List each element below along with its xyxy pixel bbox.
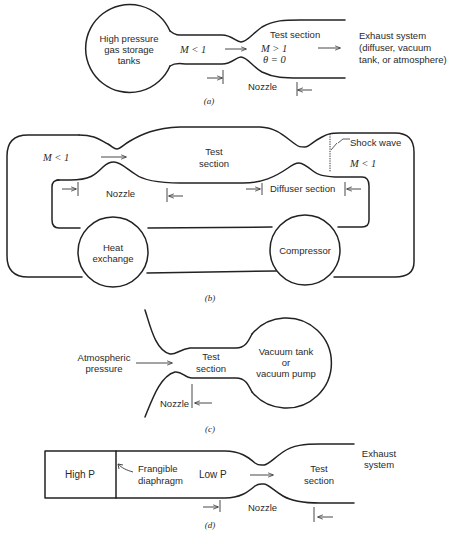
panel-a-tank-label-2: gas storage	[104, 44, 154, 55]
panel-d-caption: (d)	[205, 520, 216, 530]
panel-c-vacuum-label-1: Vacuum tank	[259, 346, 314, 357]
panel-b-test-section-label-2: section	[199, 158, 229, 169]
panel-d-diaphragm-pointer	[118, 464, 133, 472]
panel-d-diaphragm-label-2: diaphragm	[138, 475, 183, 486]
panel-c-test-section-label-2: section	[196, 363, 226, 374]
panel-c-test-section-label-1: Test	[202, 351, 220, 362]
panel-a-theta: θ = 0	[263, 54, 286, 65]
panel-a-exhaust-label-3: tank, or atmosphere)	[359, 54, 447, 65]
panel-d-upper-wall	[116, 444, 354, 465]
panel-b-shock-leader	[338, 139, 350, 143]
panel-b-heat-exchanger-label-2: exchange	[92, 253, 133, 264]
panel-c-vacuum-label-2: or	[282, 357, 290, 368]
wind-tunnel-figure: High pressure gas storage tanks M < 1 Te…	[0, 0, 449, 535]
panel-b-inner-bottom	[148, 227, 272, 228]
panel-c-inlet-label-2: pressure	[86, 363, 123, 374]
panel-b-diffuser-label: Diffuser section	[270, 183, 335, 194]
panel-d-high-p-label: High P	[65, 469, 95, 480]
panel-a-upstream-mach: M < 1	[179, 44, 206, 55]
panel-b-nozzle-label: Nozzle	[106, 188, 135, 199]
panel-b-test-section-label-1: Test	[205, 146, 223, 157]
panel-d-shock-tunnel: High P Frangible diaphragm Low P Test se…	[45, 444, 397, 530]
panel-d-low-p-label: Low P	[199, 469, 227, 480]
panel-b-compressor-label: Compressor	[279, 245, 331, 256]
panel-b-upstream-mach: M < 1	[42, 152, 69, 163]
panel-a-caption: (a)	[204, 96, 215, 106]
panel-c-lower-wall	[145, 372, 252, 417]
panel-c-inlet-label-1: Atmospheric	[78, 352, 131, 363]
panel-a-exhaust-label-1: Exhaust system	[359, 30, 426, 41]
panel-b-heat-exchanger-label-1: Heat	[103, 242, 123, 253]
panel-b-inner-left	[52, 180, 80, 228]
panel-b-outer-bottom-mid	[147, 271, 276, 273]
panel-a-lower-wall	[170, 57, 345, 78]
panel-c-nozzle-label: Nozzle	[160, 398, 189, 409]
panel-b-inner-wall	[57, 162, 369, 227]
panel-c-caption: (c)	[205, 424, 215, 434]
panel-a-tank-label-1: High pressure	[99, 33, 158, 44]
panel-c-vacuum-label-3: vacuum pump	[256, 368, 316, 379]
panel-a-nozzle-label: Nozzle	[248, 81, 277, 92]
panel-a-test-mach: M > 1	[260, 43, 287, 54]
panel-b-caption: (b)	[205, 293, 216, 303]
panel-b-downstream-mach: M < 1	[349, 158, 376, 169]
panel-a-test-section-label: Test section	[270, 29, 320, 40]
panel-b-shock-pointer-icon	[331, 143, 337, 150]
panel-b-shock-label: Shock wave	[350, 137, 401, 148]
panel-d-test-section-label-1: Test	[310, 463, 328, 474]
panel-d-diaphragm-label-1: Frangible	[138, 463, 178, 474]
panel-a-exhaust-label-2: (diffuser, vacuum	[359, 42, 431, 53]
panel-b-closed-circuit-tunnel: M < 1 Test section Shock wave M < 1 Nozz…	[7, 127, 414, 303]
panel-a-blowdown-tunnel: High pressure gas storage tanks M < 1 Te…	[86, 5, 447, 107]
panel-d-exhaust-label-1: Exhaust	[362, 448, 397, 459]
panel-a-tank-label-3: tanks	[118, 55, 141, 66]
panel-d-nozzle-label: Nozzle	[248, 502, 277, 513]
panel-d-test-section-label-2: section	[304, 475, 334, 486]
panel-c-vacuum-tank	[252, 318, 331, 408]
panel-c-upper-wall	[145, 310, 252, 354]
panel-d-exhaust-label-2: system	[364, 459, 394, 470]
panel-c-indraft-tunnel: Atmospheric pressure Test section Vacuum…	[78, 310, 332, 434]
panel-d-lower-wall	[116, 484, 354, 503]
